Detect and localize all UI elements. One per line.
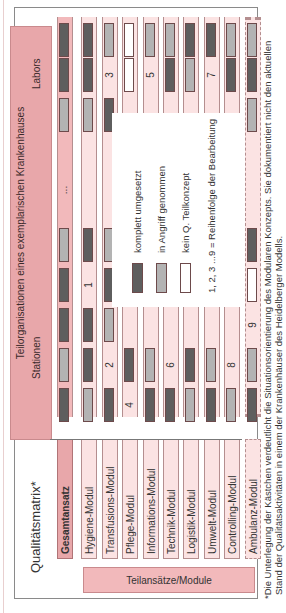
divider-vertical (50, 439, 242, 440)
row-label: Logistik-Modul (183, 439, 199, 559)
matrix-cell-dark (104, 388, 114, 422)
matrix-cell-dark (59, 268, 69, 302)
matrix-cell-dark (59, 23, 69, 57)
matrix-cell-light (206, 348, 216, 382)
matrix-cell-dark (59, 308, 69, 342)
matrix-cell-light (83, 388, 93, 422)
modules-side-label: Teilansätze/Module (83, 567, 255, 593)
matrix-cell-dark (83, 348, 93, 382)
matrix-cell-light (145, 23, 155, 57)
order-number: 6 (163, 348, 179, 382)
matrix-cell-dark (206, 23, 216, 57)
matrix-cell-light (185, 388, 195, 422)
footnote-line-2: Stand der Qualitätsaktivitäten in einem … (273, 9, 284, 599)
row-label: Pflege-Modul (122, 439, 138, 559)
matrix-cell-light (247, 23, 257, 57)
matrix-cell-light (59, 228, 69, 262)
row-label: Transfusions-Modul (102, 439, 118, 559)
order-number: 4 (122, 388, 138, 422)
row-label: Ambulanz-Modul (245, 439, 261, 559)
figure-title: Qualitätsmatrix* (28, 481, 43, 573)
matrix-row: Ambulanz-Modul9 (245, 24, 261, 569)
footnote: *Die Unterlegung der Kästchen verdeutlic… (262, 9, 284, 599)
matrix-cell-dark (145, 388, 155, 422)
ellipsis-marker: ... (57, 180, 73, 200)
matrix-cell-light (226, 388, 236, 422)
matrix-cell-light (59, 98, 69, 132)
row-label: Controlling-Modul (224, 439, 240, 559)
matrix-cell-dark (185, 348, 195, 382)
matrix-cell-dark (59, 388, 69, 422)
group-label-labors: Labors (31, 58, 42, 89)
order-number: 2 (102, 348, 118, 382)
matrix-cell-light (83, 98, 93, 132)
matrix-cell-light (185, 58, 195, 92)
swatch-white (180, 263, 191, 293)
row-label: Informations-Modul (143, 439, 159, 559)
matrix-cell-dark (83, 228, 93, 262)
matrix-cell-light (104, 23, 114, 57)
matrix-cell-dark (185, 23, 195, 57)
modules-side-label-text: Teilansätze/Module (126, 575, 212, 586)
matrix-row: Gesamtansatz... (57, 24, 73, 569)
order-number: 8 (224, 348, 240, 382)
order-number: 9 (245, 308, 261, 342)
swatch-light (156, 263, 167, 293)
org-units-title: Teilorganisationen eines exemplarischen … (15, 27, 26, 439)
matrix-cell-dark (59, 58, 69, 92)
matrix-cell-light (59, 348, 69, 382)
legend: komplett umgesetzt in Angriff genommen k… (112, 113, 240, 307)
matrix-cell-light (165, 23, 175, 57)
matrix-cell-dark (83, 23, 93, 57)
swatch-dark (132, 263, 143, 293)
matrix-cell-dark (247, 228, 257, 262)
matrix-cell-light (226, 23, 236, 57)
row-label: Umwelt-Modul (204, 439, 220, 559)
matrix-cell-dark (165, 58, 175, 92)
matrix-cell-dark (206, 388, 216, 422)
group-label-stationen: Stationen (31, 337, 42, 379)
row-label: Gesamtansatz (57, 439, 73, 559)
matrix-cell-dark (165, 388, 175, 422)
matrix-cell-dark (247, 58, 257, 92)
matrix-cell-dark (83, 58, 93, 92)
matrix-cell-light (247, 98, 257, 132)
order-number: 7 (204, 58, 220, 92)
matrix-cell-dark (226, 58, 236, 92)
matrix-cell-light (247, 348, 257, 382)
quality-matrix-figure: Qualitätsmatrix* Teilorganisationen eine… (0, 0, 286, 613)
top-rule (3, 0, 4, 613)
matrix-row: Hygiene-Modul1 (81, 24, 97, 569)
matrix-cell-light (104, 308, 114, 342)
footnote-line-1: *Die Unterlegung der Kästchen verdeutlic… (262, 9, 273, 599)
order-number: 1 (81, 268, 97, 302)
org-units-header: Teilorganisationen eines exemplarischen … (10, 26, 52, 440)
row-label: Technik-Modul (163, 439, 179, 559)
matrix-cell-dark (83, 308, 93, 342)
matrix-cell-white (124, 58, 134, 92)
order-number: 3 (102, 58, 118, 92)
order-number: 5 (143, 58, 159, 92)
matrix-cell-dark (124, 348, 134, 382)
matrix-cell-white (247, 268, 257, 302)
matrix-cell-light (145, 348, 155, 382)
matrix-cell-dark (247, 388, 257, 422)
row-label: Hygiene-Modul (81, 439, 97, 559)
matrix-cell-white (124, 23, 134, 57)
